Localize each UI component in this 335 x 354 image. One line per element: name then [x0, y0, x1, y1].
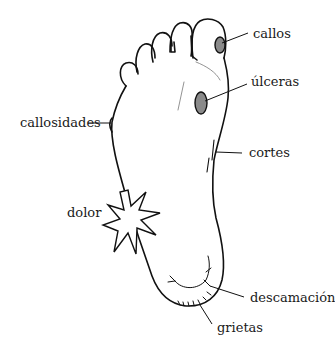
- dolor-star-icon: [103, 190, 160, 254]
- descamacion-marks: [168, 256, 211, 288]
- grietas-marks: [178, 292, 211, 306]
- ulceras-leader: [205, 84, 247, 101]
- grietas-leader: [200, 305, 212, 324]
- label-grietas: grietas: [217, 321, 263, 334]
- label-dolor: dolor: [67, 206, 101, 219]
- label-ulceras: úlceras: [251, 75, 299, 88]
- label-cortes: cortes: [249, 146, 290, 159]
- label-descamacion: descamación: [250, 291, 335, 304]
- foot-outer-edge: [112, 58, 229, 306]
- cortes-leader: [216, 152, 242, 153]
- label-callos: callos: [253, 27, 291, 40]
- callos-lesion: [215, 37, 225, 53]
- little-toe-outline: [120, 63, 138, 86]
- ulceras-lesion: [195, 92, 207, 114]
- second-toe-outline: [170, 23, 192, 56]
- label-callosidades: callosidades: [20, 116, 101, 129]
